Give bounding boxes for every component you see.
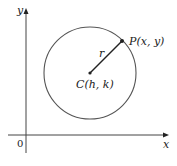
x-axis-label: x xyxy=(163,138,170,151)
radius-line xyxy=(90,41,122,73)
point-label: P(x, y) xyxy=(128,35,164,48)
center-point xyxy=(88,71,91,74)
x-axis-arrow-icon xyxy=(163,133,169,138)
y-axis-arrow-icon xyxy=(24,8,29,14)
y-axis-label: y xyxy=(16,4,24,17)
origin-label: 0 xyxy=(17,138,23,149)
radius-label: r xyxy=(99,47,105,60)
point-p xyxy=(120,39,124,43)
circle-diagram: y x 0 r C(h, k) P(x, y) xyxy=(0,0,177,166)
center-label: C(h, k) xyxy=(76,78,114,91)
